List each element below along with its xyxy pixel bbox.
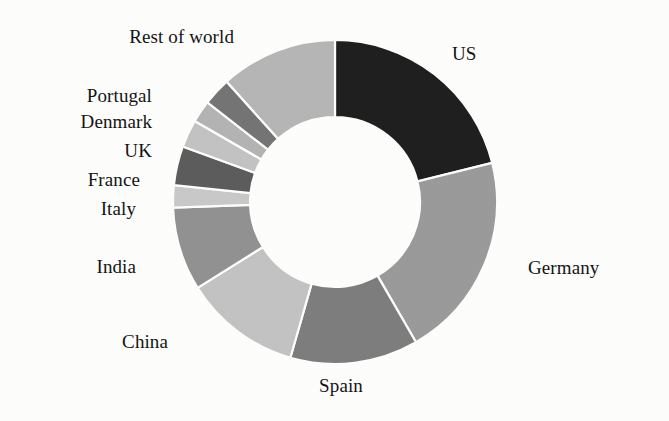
slice-label-us: US [452, 44, 532, 64]
slice-label-france: France [22, 170, 140, 190]
slice-label-germany: Germany [528, 258, 648, 278]
slice-label-uk: UK [42, 141, 152, 161]
slice-label-portugal: Portugal [32, 86, 152, 106]
slice-label-denmark: Denmark [22, 112, 152, 132]
slice-label-china: China [58, 332, 168, 352]
donut-slices [173, 40, 497, 364]
donut-chart: Rest of world Portugal Denmark UK France… [0, 0, 669, 421]
slice-label-italy: Italy [32, 199, 136, 219]
slice-label-india: India [28, 257, 136, 277]
slice-label-spain: Spain [286, 376, 396, 396]
slice-label-rest-of-world: Rest of world [74, 27, 234, 47]
